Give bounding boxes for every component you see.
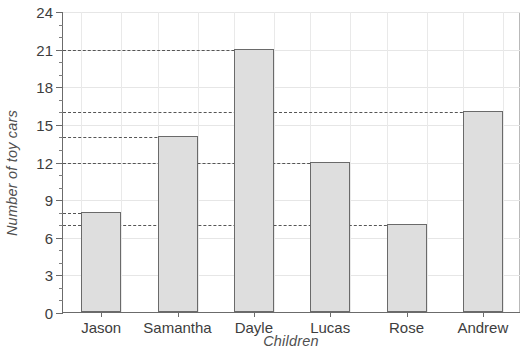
y-tick-minor xyxy=(59,300,63,301)
reference-line xyxy=(63,163,350,164)
y-tick-major xyxy=(56,313,63,314)
gridline-h xyxy=(63,200,520,201)
y-tick-label: 3 xyxy=(45,267,53,284)
y-tick-minor xyxy=(59,62,63,63)
y-tick-minor xyxy=(59,75,63,76)
x-tick-label: Rose xyxy=(389,319,424,336)
y-tick-major xyxy=(56,12,63,13)
x-tick xyxy=(101,312,102,317)
x-tick-label: Lucas xyxy=(310,319,350,336)
y-tick-major xyxy=(56,238,63,239)
gridline-h xyxy=(63,238,520,239)
y-tick-label: 9 xyxy=(45,192,53,209)
x-tick xyxy=(178,312,179,317)
gridline-h xyxy=(63,275,520,276)
y-tick-minor xyxy=(59,100,63,101)
y-tick-label: 18 xyxy=(36,79,53,96)
gridline-h xyxy=(63,87,520,88)
y-tick-minor xyxy=(59,25,63,26)
reference-line xyxy=(63,112,503,113)
y-tick-label: 12 xyxy=(36,154,53,171)
y-tick-label: 15 xyxy=(36,116,53,133)
y-tick-major xyxy=(56,50,63,51)
gridline-v xyxy=(350,12,351,312)
y-axis-title: Number of toy cars xyxy=(1,23,23,324)
y-tick-major xyxy=(56,163,63,164)
y-tick-minor xyxy=(59,250,63,251)
x-tick xyxy=(407,312,408,317)
gridline-v xyxy=(503,12,504,312)
x-tick-label: Jason xyxy=(81,319,121,336)
y-tick-major xyxy=(56,275,63,276)
bar xyxy=(234,49,274,312)
x-tick-label: Dayle xyxy=(235,319,273,336)
bar xyxy=(158,136,198,312)
plot-area: 03691215182124 JasonSamanthaDayleLucasRo… xyxy=(62,12,520,313)
y-tick-label: 6 xyxy=(45,229,53,246)
x-axis-title: Children xyxy=(62,331,520,351)
x-tick xyxy=(483,312,484,317)
bar xyxy=(310,162,350,313)
y-tick-major xyxy=(56,125,63,126)
y-tick-label: 24 xyxy=(36,4,53,21)
y-tick-label: 21 xyxy=(36,41,53,58)
x-tick xyxy=(254,312,255,317)
y-tick-minor xyxy=(59,263,63,264)
y-tick-minor xyxy=(59,37,63,38)
y-tick-major xyxy=(56,87,63,88)
bar-chart: Number of toy cars Children 036912151821… xyxy=(0,0,528,354)
gridline-h xyxy=(63,12,520,13)
bar xyxy=(81,212,121,312)
x-tick-label: Samantha xyxy=(143,319,211,336)
y-tick-minor xyxy=(59,150,63,151)
bar xyxy=(463,111,503,312)
y-tick-minor xyxy=(59,188,63,189)
x-tick-label: Andrew xyxy=(457,319,508,336)
gridline-v xyxy=(427,12,428,312)
x-tick xyxy=(330,312,331,317)
y-tick-major xyxy=(56,200,63,201)
y-tick-label: 0 xyxy=(45,305,53,322)
y-tick-minor xyxy=(59,175,63,176)
y-tick-minor xyxy=(59,288,63,289)
bar xyxy=(387,224,427,312)
gridline-h xyxy=(63,125,520,126)
